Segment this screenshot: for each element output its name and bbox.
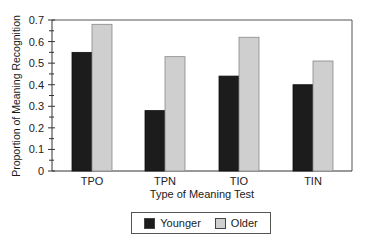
x-tick-label: TPO xyxy=(81,175,104,187)
bar-older-tpn xyxy=(165,57,185,171)
x-tick-label: TPN xyxy=(154,175,176,187)
legend-swatch-younger xyxy=(144,218,155,229)
y-tick-label: 0.7 xyxy=(29,14,44,26)
legend-swatch-older xyxy=(215,218,226,229)
bar-chart: 00.10.20.30.40.50.60.7TPOTPNTIOTIN Propo… xyxy=(0,0,366,248)
legend-item-younger: Younger xyxy=(144,217,201,229)
y-tick-label: 0.5 xyxy=(29,57,44,69)
bar-younger-tio xyxy=(219,76,239,171)
bar-younger-tpo xyxy=(72,52,92,171)
plot-area: 00.10.20.30.40.50.60.7TPOTPNTIOTIN xyxy=(0,0,366,248)
bar-older-tpo xyxy=(92,24,112,171)
y-tick-label: 0.3 xyxy=(29,100,44,112)
y-tick-label: 0 xyxy=(38,165,44,177)
x-tick-label: TIO xyxy=(230,175,249,187)
y-tick-label: 0.2 xyxy=(29,122,44,134)
bar-older-tio xyxy=(239,37,259,171)
y-tick-label: 0.6 xyxy=(29,36,44,48)
bar-younger-tin xyxy=(293,85,313,171)
bar-older-tin xyxy=(313,61,333,171)
y-tick-label: 0.1 xyxy=(29,143,44,155)
legend: Younger Older xyxy=(131,212,271,234)
y-axis-label: Proportion of Meaning Recognition xyxy=(10,6,22,186)
x-axis-label: Type of Meaning Test xyxy=(52,188,352,200)
y-tick-label: 0.4 xyxy=(29,79,44,91)
legend-label-younger: Younger xyxy=(160,217,201,229)
legend-item-older: Older xyxy=(215,217,258,229)
x-tick-label: TIN xyxy=(304,175,322,187)
legend-label-older: Older xyxy=(231,217,258,229)
bar-younger-tpn xyxy=(145,111,165,171)
